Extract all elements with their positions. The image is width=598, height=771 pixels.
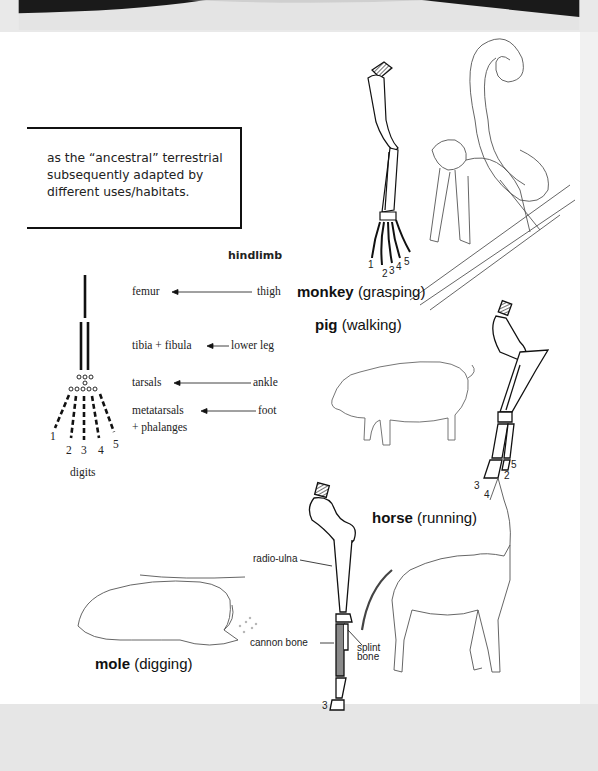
horse-name: horse	[372, 509, 413, 526]
pig-figure	[332, 362, 475, 445]
pig-digit-4: 4	[484, 489, 490, 500]
monkey-caption: monkey (grasping)	[297, 283, 425, 300]
horse-caption: horse (running)	[372, 509, 477, 526]
digit-3: 3	[81, 444, 87, 456]
radio-ulna-label: radio-ulna	[253, 553, 297, 564]
region-label-foot: foot	[258, 404, 277, 416]
monkey-digit-4: 4	[396, 261, 402, 272]
horse-digit-3: 3	[322, 700, 328, 711]
region-label-lower-leg: lower leg	[231, 339, 274, 351]
horse-limb	[309, 483, 355, 710]
mole-name: mole	[95, 655, 130, 672]
bone-label-tarsals: tarsals	[132, 376, 161, 388]
mole-caption: mole (digging)	[95, 655, 193, 672]
digit-1: 1	[50, 430, 56, 442]
bone-label-tibia-fibula: tibia + fibula	[132, 339, 192, 351]
pig-digit-2: 2	[504, 470, 510, 481]
horse-limb-label-lines	[300, 560, 362, 645]
region-label-ankle: ankle	[253, 376, 278, 388]
mole-use: (digging)	[134, 655, 192, 672]
mole-figure	[78, 575, 257, 645]
pig-limb	[484, 301, 548, 478]
monkey-digit-5: 5	[404, 256, 410, 267]
generic-limb-schematic	[55, 275, 114, 440]
splint-bone-label-line2: bone	[357, 652, 380, 661]
monkey-name: monkey	[297, 283, 354, 300]
monkey-limb	[368, 62, 410, 265]
digit-4: 4	[98, 444, 104, 456]
horse-figure	[362, 478, 510, 672]
digits-label: digits	[70, 466, 96, 478]
bone-label-femur: femur	[132, 285, 159, 297]
monkey-digit-3: 3	[389, 265, 395, 276]
pig-use: (walking)	[342, 316, 402, 333]
monkey-digit-1: 1	[368, 259, 374, 270]
region-label-thigh: thigh	[257, 285, 281, 297]
digit-2: 2	[66, 444, 72, 456]
pig-digit-3: 3	[474, 480, 480, 491]
pig-digit-5: 5	[511, 459, 517, 470]
splint-bone-label: splint bone	[357, 643, 380, 661]
hindlimb-title: hindlimb	[228, 249, 282, 262]
monkey-use: (grasping)	[358, 283, 426, 300]
digit-5: 5	[113, 438, 119, 450]
pig-caption: pig (walking)	[315, 316, 402, 333]
monkey-digit-2: 2	[382, 268, 388, 279]
pig-name: pig	[315, 316, 338, 333]
horse-use: (running)	[417, 509, 477, 526]
label-arrows	[172, 290, 256, 414]
illustrations	[0, 0, 598, 771]
bone-label-phalanges: + phalanges	[132, 421, 187, 433]
bone-label-metatarsals: metatarsals	[132, 404, 184, 416]
cannon-bone-label: cannon bone	[250, 637, 308, 648]
monkey-figure	[410, 39, 575, 310]
